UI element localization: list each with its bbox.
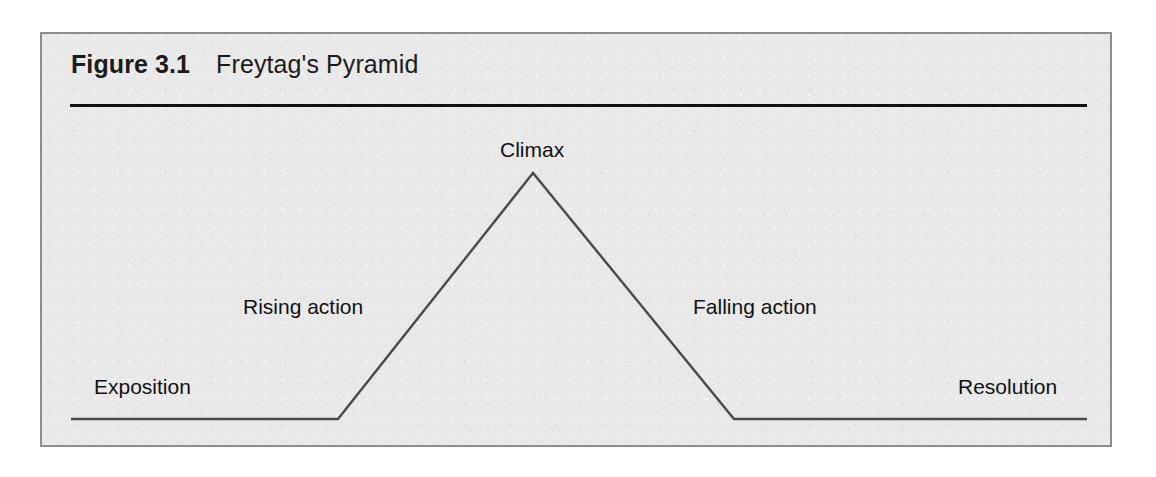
label-resolution: Resolution [958,375,1057,399]
freytag-pyramid-diagram [42,34,1110,445]
figure-frame: Figure 3.1Freytag's Pyramid Climax Risin… [40,32,1112,447]
label-climax: Climax [500,138,564,162]
label-falling-action: Falling action [693,295,817,319]
figure-root: Figure 3.1Freytag's Pyramid Climax Risin… [0,0,1156,477]
label-rising-action: Rising action [243,295,363,319]
dramatic-arc-line [71,173,1087,419]
label-exposition: Exposition [94,375,191,399]
pyramid-line-svg [42,34,1110,445]
